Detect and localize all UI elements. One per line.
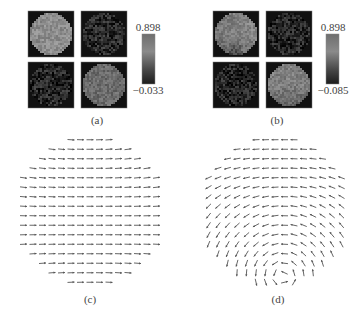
vector-arrow	[319, 157, 326, 159]
vector-arrow	[115, 205, 122, 207]
vector-arrow	[144, 253, 151, 255]
vector-arrow	[329, 167, 336, 169]
vector-arrow	[87, 243, 94, 245]
tile-disc	[83, 64, 125, 106]
vector-arrow	[30, 167, 37, 169]
vector-arrow	[68, 243, 75, 245]
vector-arrow	[338, 186, 344, 189]
vector-arrow	[49, 167, 56, 169]
vector-arrow	[77, 158, 84, 160]
vector-arrow	[253, 177, 260, 179]
vector-arrow	[321, 260, 324, 267]
vector-arrow	[300, 214, 307, 217]
vector-arrow	[153, 176, 160, 178]
vector-arrow	[106, 196, 113, 198]
vector-arrow	[58, 224, 65, 226]
vector-arrow	[253, 205, 260, 208]
vector-arrow	[330, 232, 335, 237]
vector-arrow	[144, 177, 151, 179]
vector-arrow	[245, 260, 248, 267]
vector-arrow	[68, 215, 75, 217]
vector-arrow	[68, 158, 75, 160]
vector-arrow	[273, 279, 277, 285]
vector-arrow	[234, 158, 241, 160]
vector-arrow	[96, 139, 103, 141]
vector-arrow	[87, 272, 94, 274]
vector-arrow	[125, 167, 132, 169]
vector-arrow	[262, 196, 269, 198]
vector-arrow	[39, 205, 46, 207]
vector-arrow	[39, 224, 46, 226]
panel-a-label: (a)	[91, 114, 104, 127]
vector-arrow	[300, 176, 307, 178]
vector-arrow	[58, 205, 65, 207]
vector-arrow	[134, 157, 141, 159]
vector-arrow	[320, 232, 325, 237]
vector-arrow	[87, 253, 94, 255]
vector-arrow	[291, 177, 298, 179]
vector-arrow	[87, 215, 94, 217]
vector-arrow	[272, 148, 279, 150]
vector-arrow	[216, 222, 220, 228]
vector-arrow	[87, 186, 94, 188]
vector-arrow	[310, 186, 317, 188]
vector-arrow	[77, 215, 84, 217]
vector-arrow	[320, 242, 324, 247]
vector-arrow	[153, 243, 160, 245]
vector-arrow	[319, 205, 325, 208]
vector-arrow	[87, 139, 94, 141]
image-tile-top-right	[266, 11, 312, 57]
vector-arrow	[134, 196, 141, 198]
vector-arrow	[30, 177, 37, 179]
vector-arrow	[206, 213, 210, 218]
vector-arrow	[39, 234, 46, 236]
vector-arrow	[144, 224, 151, 226]
vector-arrow	[96, 272, 103, 274]
vector-arrow	[272, 215, 279, 217]
vector-arrow	[215, 195, 221, 199]
vector-arrow	[58, 272, 65, 274]
image-tile-top-left	[28, 11, 74, 57]
vector-arrow	[310, 205, 316, 208]
vector-arrow	[312, 269, 314, 276]
vector-arrow	[153, 215, 160, 217]
vector-arrow	[272, 253, 279, 256]
panel-c-label: (c)	[84, 293, 97, 306]
vector-arrow	[20, 196, 27, 198]
tile-disc	[83, 13, 125, 55]
vector-arrow	[281, 139, 288, 141]
vector-arrow	[77, 253, 84, 255]
vector-arrow	[254, 251, 258, 256]
vector-arrow	[226, 260, 228, 267]
vector-arrow	[58, 177, 65, 179]
vector-arrow	[281, 148, 288, 150]
vector-arrow	[77, 177, 84, 179]
vector-arrow	[205, 185, 211, 189]
vector-arrow	[330, 251, 333, 257]
vector-arrow	[134, 243, 141, 245]
vector-arrow	[134, 215, 141, 217]
vector-arrow	[281, 167, 288, 169]
vector-arrow	[96, 205, 103, 207]
vector-arrow	[77, 281, 84, 283]
vector-arrow	[225, 232, 229, 238]
vector-arrow	[320, 214, 326, 218]
vector-arrow	[243, 167, 250, 169]
vector-arrow	[30, 205, 37, 207]
vector-arrow	[106, 205, 113, 207]
vector-arrow	[77, 243, 84, 245]
vector-arrow	[302, 269, 304, 276]
vector-arrow	[106, 224, 113, 226]
vector-arrow	[235, 232, 240, 237]
vector-arrow	[30, 243, 37, 245]
vector-arrow	[262, 205, 269, 207]
vector-arrow	[224, 195, 230, 198]
vector-arrow	[106, 186, 113, 188]
vector-arrow	[68, 196, 75, 198]
vector-arrow	[310, 223, 316, 227]
vector-arrow	[319, 167, 326, 169]
vector-arrow	[77, 262, 84, 264]
vector-arrow	[253, 167, 260, 169]
vector-arrow	[207, 232, 210, 238]
image-tile-top-left	[213, 11, 259, 57]
